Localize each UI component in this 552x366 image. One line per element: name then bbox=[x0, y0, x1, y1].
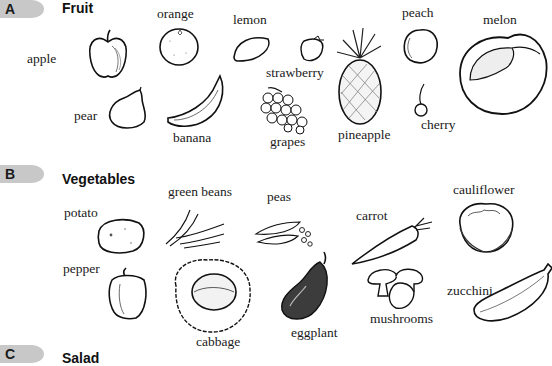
pineapple-illustration bbox=[335, 26, 385, 126]
label-apple: apple bbox=[27, 51, 56, 67]
eggplant-illustration bbox=[280, 250, 332, 322]
orange-illustration bbox=[158, 27, 200, 67]
potato-illustration bbox=[95, 217, 147, 255]
label-mushrooms: mushrooms bbox=[370, 311, 433, 327]
strawberry-illustration bbox=[300, 35, 326, 63]
label-peas: peas bbox=[267, 189, 291, 205]
green-beans-illustration bbox=[164, 208, 226, 248]
section-badge-b: B bbox=[0, 165, 44, 183]
label-lemon: lemon bbox=[233, 12, 267, 28]
label-orange: orange bbox=[157, 6, 194, 22]
cauliflower-illustration bbox=[454, 200, 518, 254]
label-pepper: pepper bbox=[63, 261, 100, 277]
section-badge-c: C bbox=[0, 345, 44, 363]
melon-illustration bbox=[456, 30, 548, 116]
label-strawberry: strawberry bbox=[266, 65, 324, 81]
section-badge-a: A bbox=[0, 0, 44, 18]
cabbage-illustration bbox=[170, 256, 254, 334]
label-banana: banana bbox=[173, 130, 211, 146]
peach-illustration bbox=[400, 26, 440, 66]
section-title-fruit: Fruit bbox=[62, 0, 93, 16]
pear-illustration bbox=[106, 86, 148, 130]
label-grapes: grapes bbox=[270, 134, 305, 150]
label-cabbage: cabbage bbox=[196, 334, 240, 350]
label-cauliflower: cauliflower bbox=[453, 182, 514, 198]
pepper-illustration bbox=[106, 268, 148, 320]
lemon-illustration bbox=[232, 33, 272, 63]
peas-illustration bbox=[254, 218, 314, 248]
section-letter-c: C bbox=[5, 346, 15, 362]
section-letter-a: A bbox=[5, 1, 15, 17]
label-cherry: cherry bbox=[421, 117, 455, 133]
zucchini-illustration bbox=[470, 262, 552, 324]
label-pear: pear bbox=[74, 108, 97, 124]
label-potato: potato bbox=[64, 205, 98, 221]
label-pineapple: pineapple bbox=[338, 127, 390, 143]
mushrooms-illustration bbox=[366, 266, 426, 312]
section-letter-b: B bbox=[5, 166, 15, 182]
carrot-illustration bbox=[350, 214, 434, 266]
cherry-illustration bbox=[412, 82, 432, 118]
section-title-salad: Salad bbox=[62, 350, 99, 366]
apple-illustration bbox=[88, 28, 128, 82]
banana-illustration bbox=[166, 74, 228, 130]
label-eggplant: eggplant bbox=[291, 325, 338, 341]
grapes-illustration bbox=[258, 84, 314, 134]
label-green-beans: green beans bbox=[168, 184, 232, 200]
label-melon: melon bbox=[483, 12, 517, 28]
section-title-vegetables: Vegetables bbox=[62, 171, 135, 187]
label-peach: peach bbox=[402, 5, 433, 21]
